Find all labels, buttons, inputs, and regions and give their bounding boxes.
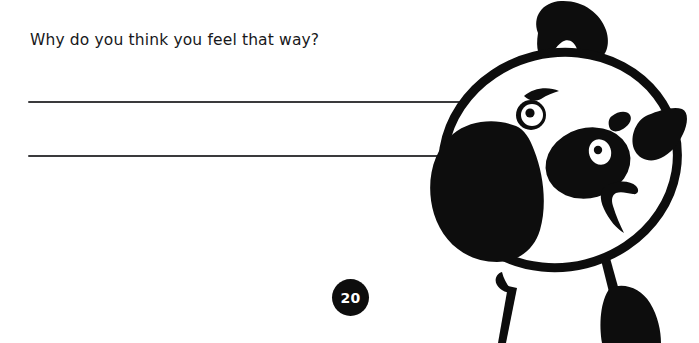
page-number-badge: 20 — [332, 279, 369, 316]
dog-left-arm-icon — [498, 286, 517, 343]
dog-right-eye-pupil — [594, 146, 602, 154]
dog-left-ear-patch-icon — [430, 121, 544, 262]
page-title: Why do you think you feel that way? — [30, 31, 460, 50]
worksheet-page: Why do you think you feel that way? 20 — [0, 0, 699, 343]
cartoon-dog-illustration — [420, 0, 699, 343]
answer-line-2[interactable] — [28, 155, 445, 157]
dog-right-arm-icon — [601, 286, 661, 343]
page-number-label: 20 — [340, 290, 360, 306]
dog-left-eye-pupil — [525, 108, 534, 117]
